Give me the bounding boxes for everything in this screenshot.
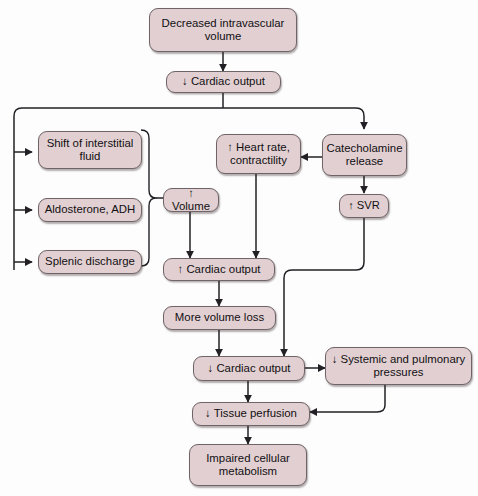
compensation-brace [141, 130, 156, 266]
node-label: ↓ Systemic and pulmonary pressures [332, 353, 466, 380]
node-more-volume-loss[interactable]: More volume loss [163, 306, 276, 330]
flowchart-diagram: Decreased intravascular volume ↓ Cardiac… [0, 0, 478, 496]
node-label: ↑ SVR [348, 199, 380, 212]
node-label: ↓ Tissue perfusion [205, 407, 297, 420]
node-label: ↑ Volume [168, 187, 214, 214]
node-increased-svr[interactable]: ↑ SVR [339, 194, 389, 218]
node-decreased-intravascular-volume[interactable]: Decreased intravascular volume [149, 8, 297, 52]
node-label: Shift of interstitial fluid [47, 137, 134, 164]
node-impaired-cellular-metabolism[interactable]: Impaired cellular metabolism [189, 444, 307, 486]
node-shift-of-interstitial-fluid[interactable]: Shift of interstitial fluid [38, 131, 142, 169]
node-label: Decreased intravascular volume [162, 17, 285, 44]
node-label: Catecholamine release [327, 142, 403, 169]
edge-svr-to-decreased-cardiac-output [284, 218, 364, 356]
edge-pressures-to-tissue-perfusion [310, 385, 385, 412]
node-catecholamine-release[interactable]: Catecholamine release [322, 134, 407, 176]
node-decreased-cardiac-output-bottom[interactable]: ↓ Cardiac output [193, 356, 305, 381]
node-decreased-tissue-perfusion[interactable]: ↓ Tissue perfusion [192, 402, 310, 426]
node-increased-volume[interactable]: ↑ Volume [163, 188, 219, 212]
node-label: Aldosterone, ADH [45, 203, 136, 216]
node-aldosterone-adh[interactable]: Aldosterone, ADH [38, 198, 142, 222]
node-increased-cardiac-output[interactable]: ↑ Cardiac output [163, 258, 275, 281]
node-decreased-systemic-pulmonary-pressures[interactable]: ↓ Systemic and pulmonary pressures [325, 347, 472, 385]
node-label: ↑ Heart rate, contractility [227, 141, 290, 168]
node-label: ↓ Cardiac output [208, 362, 291, 375]
node-decreased-cardiac-output-top[interactable]: ↓ Cardiac output [166, 71, 281, 93]
edge-bus-right [223, 108, 364, 129]
node-label: Splenic discharge [45, 255, 135, 268]
node-label: ↓ Cardiac output [182, 75, 265, 88]
node-splenic-discharge[interactable]: Splenic discharge [38, 250, 142, 274]
node-increased-heart-rate-contractility[interactable]: ↑ Heart rate, contractility [216, 134, 301, 174]
node-label: Impaired cellular metabolism [206, 452, 290, 479]
node-label: ↑ Cardiac output [178, 263, 261, 276]
node-label: More volume loss [175, 311, 264, 324]
